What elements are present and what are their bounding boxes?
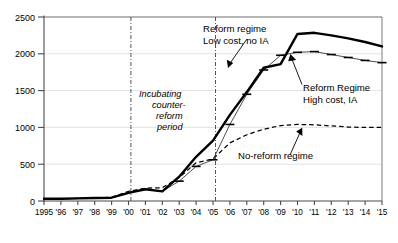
leader-reform-high-cost bbox=[292, 58, 303, 85]
annotation-incubating-period: Incubating counter- reform period bbox=[139, 89, 186, 132]
xtick-label-2001: '01 bbox=[140, 208, 151, 217]
annotation-leaders bbox=[227, 39, 303, 155]
anno-no-reform-line1: No-reform regime bbox=[238, 150, 313, 161]
xtick-label-2003: '03 bbox=[174, 208, 185, 217]
x-tick-label-group: 1995'96'97'98'99'00'01'02'03'04'05'06'07… bbox=[35, 208, 388, 217]
annotation-reform-low-cost: Reform regime Low cost, no IA bbox=[203, 23, 269, 46]
xtick-label-2010: '10 bbox=[292, 208, 303, 217]
leader-arrowhead-low-cost bbox=[227, 60, 233, 68]
anno-reform-high-cost-line1: Reform Regime bbox=[303, 82, 370, 93]
x-axis: 1995'96'97'98'99'00'01'02'03'04'05'06'07… bbox=[35, 201, 388, 217]
line-chart: 2500 2000 1500 1000 500 0 1995'96'97'98'… bbox=[0, 0, 398, 243]
xtick-label-1996: '96 bbox=[56, 208, 67, 217]
xtick-label-1998: '98 bbox=[89, 208, 100, 217]
xtick-label-2005: '05 bbox=[208, 208, 219, 217]
series-no-reform-regime bbox=[44, 124, 382, 198]
xtick-label-2011: '11 bbox=[309, 208, 320, 217]
annotation-no-reform: No-reform regime bbox=[238, 150, 313, 161]
anno-incubating-line1: Incubating bbox=[139, 89, 182, 99]
xtick-label-1995: 1995 bbox=[35, 208, 54, 217]
xtick-label-1997: '97 bbox=[72, 208, 83, 217]
xtick-label-2013: '13 bbox=[343, 208, 354, 217]
xtick-label-2002: '02 bbox=[157, 208, 168, 217]
xtick-label-2000: '00 bbox=[123, 208, 134, 217]
series-reform-low-cost-no-ia bbox=[44, 33, 382, 199]
xtick-label-1999: '99 bbox=[106, 208, 117, 217]
xtick-label-2008: '08 bbox=[258, 208, 269, 217]
ytick-label-500: 500 bbox=[20, 160, 35, 170]
anno-incubating-line2: counter- bbox=[152, 100, 186, 110]
series-high-cost-tickmarks bbox=[175, 52, 387, 182]
y-axis: 2500 2000 1500 1000 500 0 bbox=[15, 13, 44, 207]
ytick-label-1000: 1000 bbox=[15, 123, 35, 133]
xtick-label-2004: '04 bbox=[191, 208, 202, 217]
chart-container: 2500 2000 1500 1000 500 0 1995'96'97'98'… bbox=[0, 0, 398, 243]
anno-reform-low-cost-line2: Low cost, no IA bbox=[203, 35, 269, 46]
xtick-label-2007: '07 bbox=[241, 208, 252, 217]
xtick-label-2012: '12 bbox=[326, 208, 337, 217]
ytick-label-1500: 1500 bbox=[15, 86, 35, 96]
x-tick-group bbox=[44, 201, 382, 205]
ytick-label-0: 0 bbox=[30, 197, 35, 207]
series-reform-high-cost-ia bbox=[44, 52, 382, 199]
anno-incubating-line3: reform bbox=[156, 111, 183, 121]
xtick-label-2006: '06 bbox=[225, 208, 236, 217]
anno-reform-high-cost-line2: High cost, IA bbox=[303, 94, 358, 105]
xtick-label-2014: '14 bbox=[360, 208, 371, 217]
leader-arrowhead-high-cost bbox=[288, 54, 296, 61]
ytick-label-2500: 2500 bbox=[15, 13, 35, 23]
xtick-label-2015: '15 bbox=[377, 208, 388, 217]
xtick-label-2009: '09 bbox=[275, 208, 286, 217]
anno-incubating-line4: period bbox=[156, 122, 183, 132]
anno-reform-low-cost-line1: Reform regime bbox=[203, 23, 266, 34]
ytick-label-2000: 2000 bbox=[15, 49, 35, 59]
annotation-reform-high-cost: Reform Regime High cost, IA bbox=[303, 82, 370, 105]
